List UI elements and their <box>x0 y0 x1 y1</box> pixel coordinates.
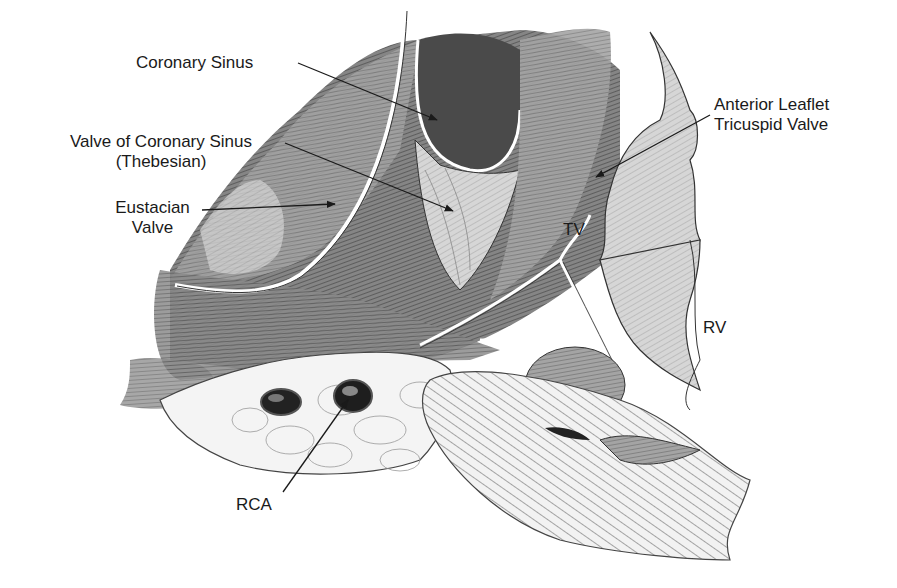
label-eustacian-valve: Eustacian Valve <box>100 198 205 238</box>
label-rv: RV <box>703 318 726 338</box>
label-rca: RCA <box>236 495 272 515</box>
label-valve-coronary-sinus-line1: Valve of Coronary Sinus <box>36 132 286 152</box>
rca-cross-section <box>334 380 372 412</box>
label-anterior-leaflet: Anterior Leaflet Tricuspid Valve <box>714 95 829 135</box>
vein-cross-section <box>261 389 301 415</box>
label-anterior-line1: Anterior Leaflet <box>714 95 829 115</box>
label-eustacian-line2: Valve <box>100 218 205 238</box>
label-tv: TV <box>563 220 585 240</box>
anatomy-illustration <box>0 0 897 588</box>
label-eustacian-line1: Eustacian <box>100 198 205 218</box>
label-valve-coronary-sinus: Valve of Coronary Sinus (Thebesian) <box>36 132 286 172</box>
ventricular-muscle <box>423 372 751 560</box>
label-coronary-sinus: Coronary Sinus <box>136 53 253 73</box>
label-valve-coronary-sinus-line2: (Thebesian) <box>36 152 286 172</box>
label-anterior-line2: Tricuspid Valve <box>714 115 829 135</box>
